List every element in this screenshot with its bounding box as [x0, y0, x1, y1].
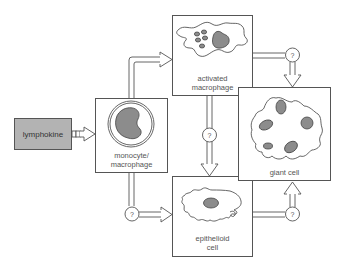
- lymphokine-arrow: [72, 127, 95, 141]
- giant-cell-icon: [251, 98, 322, 159]
- activated-to-epithelioid-arrow: ?: [201, 96, 218, 176]
- activated-macrophage-cell-icon: [177, 22, 248, 56]
- monocyte-to-activated-arrow: [129, 52, 172, 98]
- monocyte-to-epithelioid-arrow: ?: [125, 173, 172, 222]
- svg-text:?: ?: [291, 52, 295, 59]
- activated-to-giant-arrow: ?: [253, 48, 301, 87]
- epithelioid-cell-icon: [182, 188, 241, 221]
- diagram-graphics: .s { fill: none; stroke: #555; stroke-wi…: [0, 0, 344, 270]
- epithelioid-to-giant-arrow: ?: [253, 182, 301, 221]
- svg-text:?: ?: [130, 211, 134, 218]
- svg-text:?: ?: [208, 132, 212, 139]
- svg-text:?: ?: [291, 211, 295, 218]
- monocyte-cell-icon: [108, 101, 154, 147]
